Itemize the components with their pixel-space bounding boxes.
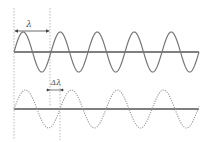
wavelength-shift-diagram: λ Δλ xyxy=(0,0,212,142)
wavelength-arrow: λ xyxy=(14,19,50,33)
delta-wavelength-label: Δλ xyxy=(50,78,62,87)
wavelength-label: λ xyxy=(25,19,32,29)
delta-wavelength-arrows: Δλ xyxy=(46,78,64,91)
